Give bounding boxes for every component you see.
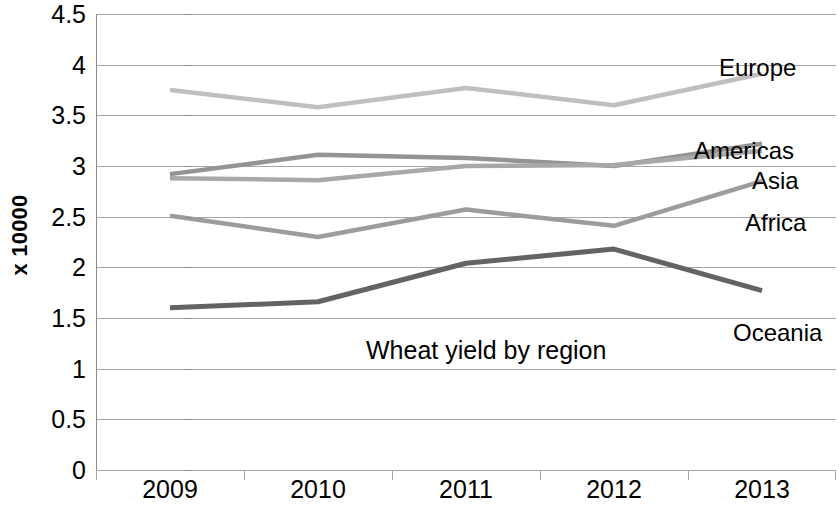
x-tick-label: 2009 <box>142 476 198 504</box>
x-tick-label: 2013 <box>734 476 790 504</box>
series-label-americas: Americas <box>694 139 794 163</box>
x-axis-line <box>96 470 836 471</box>
y-tick-label: 1 <box>72 356 86 381</box>
y-tick-mark <box>185 166 192 167</box>
y-tick-label: 3 <box>72 154 86 179</box>
chart-inline-title: Wheat yield by region <box>366 338 606 363</box>
y-tick-mark <box>185 217 192 218</box>
y-axis-tick-labels: 00.511.522.533.544.5 <box>34 0 90 484</box>
series-label-europe: Europe <box>719 56 796 80</box>
series-line-europe <box>170 74 762 107</box>
x-tick-label: 2012 <box>586 476 642 504</box>
series-label-oceania: Oceania <box>733 321 822 345</box>
y-tick-mark <box>185 318 192 319</box>
series-label-africa: Africa <box>745 211 806 235</box>
x-tick-label: 2011 <box>439 476 493 504</box>
y-tick-mark <box>185 470 192 471</box>
x-axis-tick-labels: 20092010201120122013 <box>96 476 836 520</box>
y-tick-mark <box>185 115 192 116</box>
y-tick-mark <box>185 14 192 15</box>
y-tick-label: 0.5 <box>51 407 86 432</box>
y-tick-mark <box>185 369 192 370</box>
series-line-africa <box>170 181 762 237</box>
y-tick-mark <box>185 65 192 66</box>
x-tick-label: 2010 <box>290 476 346 504</box>
series-label-asia: Asia <box>752 169 799 193</box>
series-lines <box>96 14 836 470</box>
y-tick-label: 2.5 <box>51 204 86 229</box>
y-tick-label: 1.5 <box>51 306 86 331</box>
y-tick-mark <box>185 419 192 420</box>
chart-container: x 10000 00.511.522.533.544.5 20092010201… <box>0 0 839 530</box>
plot-area <box>96 14 836 470</box>
y-tick-label: 0 <box>72 458 86 483</box>
y-tick-label: 2 <box>72 255 86 280</box>
y-tick-mark <box>185 267 192 268</box>
series-line-oceania <box>170 249 762 308</box>
y-tick-label: 3.5 <box>51 103 86 128</box>
y-tick-label: 4.5 <box>51 2 86 27</box>
y-tick-label: 4 <box>72 52 86 77</box>
y-axis-title-label: x 10000 <box>7 195 33 276</box>
